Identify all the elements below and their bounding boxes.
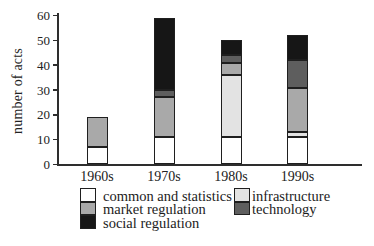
stacked-bar-chart-figure: number of acts 0102030405060 1960s1970s1…	[0, 0, 374, 246]
bar-segment-1980s-common-and-statistics	[221, 137, 242, 164]
y-tick-label-10: 10	[24, 133, 50, 146]
y-tick-label-30: 30	[24, 84, 50, 97]
bar-segment-1980s-social-regulation	[221, 40, 242, 55]
bar-segment-1960s-common-and-statistics	[87, 147, 108, 164]
y-tick-mark-30	[53, 89, 58, 91]
bar-segment-1990s-common-and-statistics	[287, 137, 308, 164]
legend-swatch-common-and-statistics	[80, 188, 96, 202]
bar-segment-1980s-market-regulation	[221, 63, 242, 75]
legend-swatch-social-regulation	[80, 215, 96, 229]
y-tick-mark-0	[53, 164, 58, 166]
bar-segment-1990s-social-regulation	[287, 35, 308, 60]
y-tick-mark-50	[53, 40, 58, 42]
bar-segment-1970s-common-and-statistics	[154, 137, 175, 164]
legend-label-technology: technology	[252, 202, 316, 216]
bar-segment-1980s-infrastructure	[221, 75, 242, 137]
bar-segment-1980s-technology	[221, 55, 242, 62]
legend-swatch-infrastructure	[234, 188, 250, 202]
bar-segment-1970s-market-regulation	[154, 97, 175, 137]
legend-label-market-regulation: market regulation	[103, 202, 206, 216]
legend-swatch-market-regulation	[80, 202, 96, 216]
x-tick-label-1990s: 1990s	[268, 169, 328, 185]
y-tick-mark-60	[53, 15, 58, 17]
bar-segment-1990s-market-regulation	[287, 88, 308, 133]
bar-segment-1990s-infrastructure	[287, 132, 308, 137]
y-tick-label-20: 20	[24, 108, 50, 121]
y-tick-label-40: 40	[24, 59, 50, 72]
bar-segment-1970s-social-regulation	[154, 18, 175, 90]
x-tick-label-1980s: 1980s	[201, 169, 261, 185]
bar-segment-1990s-technology	[287, 60, 308, 87]
legend-label-social-regulation: social regulation	[103, 216, 199, 230]
y-tick-label-60: 60	[24, 9, 50, 22]
y-tick-mark-20	[53, 114, 58, 116]
bar-segment-1970s-technology	[154, 90, 175, 97]
bar-segment-1960s-market-regulation	[87, 117, 108, 147]
x-tick-label-1960s: 1960s	[67, 169, 127, 185]
y-tick-mark-40	[53, 64, 58, 66]
legend-swatch-technology	[234, 202, 250, 216]
y-tick-label-50: 50	[24, 34, 50, 47]
y-tick-label-0: 0	[24, 158, 50, 171]
x-tick-label-1970s: 1970s	[134, 169, 194, 185]
y-tick-mark-10	[53, 139, 58, 141]
